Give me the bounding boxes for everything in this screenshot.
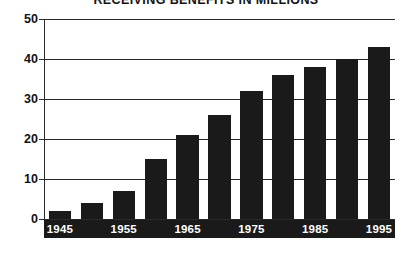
x-axis-tick-label-1975: 1975 xyxy=(235,220,267,238)
bar-1950 xyxy=(81,203,103,219)
bar-1975 xyxy=(240,91,262,219)
bar-1945 xyxy=(49,211,71,219)
bar-1960 xyxy=(145,159,167,219)
chart-title: RECEIVING BENEFITS IN MILLIONS xyxy=(0,0,412,7)
bar-1995 xyxy=(368,47,390,219)
x-axis-tick-label-1995: 1995 xyxy=(363,220,395,238)
plot-area xyxy=(44,19,395,219)
y-tick-10 xyxy=(39,179,44,180)
y-axis-tick-label-10: 10 xyxy=(12,173,38,186)
y-axis-tick-label-40: 40 xyxy=(12,53,38,66)
bar-1955 xyxy=(113,191,135,219)
gridline-50 xyxy=(44,19,395,20)
y-tick-20 xyxy=(39,139,44,140)
y-axis-tick-label-20: 20 xyxy=(12,133,38,146)
x-axis-tick-label-1985: 1985 xyxy=(299,220,331,238)
y-axis-labels: 01020304050 xyxy=(8,19,38,219)
bar-1985 xyxy=(304,67,326,219)
bar-1970 xyxy=(208,115,230,219)
y-axis-tick-label-0: 0 xyxy=(12,213,38,226)
y-tick-50 xyxy=(39,19,44,20)
bar-1965 xyxy=(176,135,198,219)
bar-1990 xyxy=(336,59,358,219)
y-axis-tick-label-30: 30 xyxy=(12,93,38,106)
x-axis-tick-label-1955: 1955 xyxy=(108,220,140,238)
x-axis-tick-label-1945: 1945 xyxy=(44,220,76,238)
y-axis-tick-label-50: 50 xyxy=(12,13,38,26)
x-axis-tick-label-1965: 1965 xyxy=(172,220,204,238)
x-axis-label-band: 194519551965197519851995 xyxy=(44,220,395,238)
bar-chart: RECEIVING BENEFITS IN MILLIONS 010203040… xyxy=(0,0,412,255)
y-tick-30 xyxy=(39,99,44,100)
y-tick-40 xyxy=(39,59,44,60)
y-axis-line xyxy=(44,19,45,219)
bar-1980 xyxy=(272,75,294,219)
